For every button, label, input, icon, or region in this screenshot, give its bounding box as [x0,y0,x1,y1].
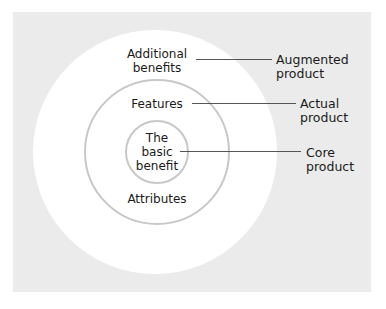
label-line: Augmented [276,53,349,67]
label-line: Additional [122,47,192,61]
actual-leader-line [192,103,296,104]
augmented-product-label: Augmented product [276,53,349,81]
label-line: benefit [130,159,184,173]
label-line: Core [306,146,354,160]
actual-product-label: Actual product [300,97,348,125]
label-line: Actual [300,97,348,111]
label-line: The [130,131,184,145]
label-line: basic [130,145,184,159]
label-line: product [306,160,354,174]
core-product-label: Core product [306,146,354,174]
label-line: benefits [122,61,192,75]
core-leader-line [180,151,301,152]
augmented-leader-line [196,59,272,60]
attributes-label: Attributes [117,192,197,206]
label-line: product [276,67,349,81]
features-label: Features [122,97,192,111]
additional-benefits-label: Additional benefits [122,47,192,75]
basic-benefit-label: The basic benefit [130,131,184,173]
label-line: product [300,111,348,125]
